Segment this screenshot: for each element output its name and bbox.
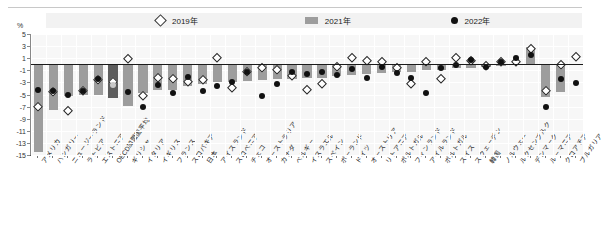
marker-2022 <box>408 75 414 81</box>
marker-2022 <box>200 88 206 94</box>
marker-2022 <box>110 82 116 88</box>
marker-2019 <box>212 53 222 63</box>
black-dot-icon <box>451 17 458 24</box>
y-axis-tick-mark <box>27 46 30 47</box>
gridline-horizontal <box>31 155 583 156</box>
gridline-vertical <box>76 34 77 155</box>
legend-label-2022: 2022年 <box>465 15 491 26</box>
marker-2022 <box>364 75 370 81</box>
y-axis-tick-mark <box>27 82 30 83</box>
gridline-vertical <box>195 34 196 155</box>
gridline-vertical <box>434 34 435 155</box>
legend-label-2019: 2019年 <box>172 15 198 26</box>
y-axis-tick-label: 1 <box>0 55 26 62</box>
legend-label-2021: 2021年 <box>325 15 351 26</box>
y-axis-tick-mark <box>27 107 30 108</box>
legend-item-2019: 2019年 <box>156 15 198 26</box>
gridline-vertical <box>180 34 181 155</box>
y-axis-tick-mark <box>27 34 30 35</box>
y-axis-tick-mark <box>27 70 30 71</box>
marker-2022 <box>468 57 474 63</box>
y-axis-tick-label: 5 <box>0 31 26 38</box>
bar-2021 <box>138 64 147 92</box>
gridline-vertical <box>359 34 360 155</box>
gridline-vertical <box>46 34 47 155</box>
gray-bar-icon <box>305 17 318 24</box>
marker-2022 <box>573 80 579 86</box>
y-axis-tick-label: -1 <box>0 67 26 74</box>
gridline-vertical <box>285 34 286 155</box>
gridline-vertical <box>419 34 420 155</box>
marker-2022 <box>65 92 71 98</box>
gridline-horizontal <box>31 143 583 144</box>
marker-2019 <box>347 52 357 62</box>
gridline-horizontal <box>31 46 583 47</box>
marker-2022 <box>319 69 325 75</box>
gridline-vertical <box>464 34 465 155</box>
marker-2022 <box>513 55 519 61</box>
marker-2022 <box>229 79 235 85</box>
y-axis-tick-label: -5 <box>0 91 26 98</box>
gridline-vertical <box>523 34 524 155</box>
diamond-outline-icon <box>154 14 167 27</box>
top-divider <box>8 7 582 8</box>
marker-2022 <box>140 104 146 110</box>
marker-2022 <box>349 66 355 72</box>
gridline-vertical <box>508 34 509 155</box>
gridline-vertical <box>300 34 301 155</box>
marker-2022 <box>125 89 131 95</box>
gridline-vertical <box>404 34 405 155</box>
y-axis-tick-mark <box>27 119 30 120</box>
bar-2021 <box>407 64 416 71</box>
marker-2022 <box>35 87 41 93</box>
marker-2022 <box>274 81 280 87</box>
bar-2021 <box>123 64 132 106</box>
marker-2022 <box>394 70 400 76</box>
gridline-vertical <box>31 34 32 155</box>
marker-2022 <box>438 65 444 71</box>
y-axis-tick-label: -15 <box>0 152 26 159</box>
marker-2022 <box>244 69 250 75</box>
gridline-vertical <box>493 34 494 155</box>
gridline-horizontal <box>31 119 583 120</box>
marker-2022 <box>80 88 86 94</box>
marker-2019 <box>123 54 133 64</box>
marker-2022 <box>289 69 295 75</box>
marker-2022 <box>558 76 564 82</box>
marker-2022 <box>185 74 191 80</box>
gridline-horizontal <box>31 131 583 132</box>
marker-2022 <box>528 52 534 58</box>
gridline-horizontal <box>31 34 583 35</box>
zero-axis-line <box>31 64 583 65</box>
marker-2022 <box>155 82 161 88</box>
y-axis-tick-label: -13 <box>0 139 26 146</box>
gridline-horizontal <box>31 107 583 108</box>
marker-2022 <box>423 90 429 96</box>
gridline-vertical <box>583 34 584 155</box>
gridline-vertical <box>553 34 554 155</box>
y-axis-unit-label: % <box>17 22 23 29</box>
gridline-vertical <box>255 34 256 155</box>
gridline-vertical <box>165 34 166 155</box>
gridline-vertical <box>389 34 390 155</box>
marker-2022 <box>259 93 265 99</box>
gridline-vertical <box>91 34 92 155</box>
marker-2022 <box>50 88 56 94</box>
gridline-vertical <box>121 34 122 155</box>
gridline-vertical <box>135 34 136 155</box>
y-axis-tick-mark <box>27 155 30 156</box>
y-axis-tick-mark <box>27 131 30 132</box>
gridline-vertical <box>479 34 480 155</box>
gridline-vertical <box>150 34 151 155</box>
marker-2022 <box>334 72 340 78</box>
chart-legend: 2019年 2021年 2022年 <box>46 13 582 28</box>
gridline-vertical <box>270 34 271 155</box>
y-axis-tick-label: 3 <box>0 43 26 50</box>
legend-item-2022: 2022年 <box>451 15 491 26</box>
marker-2019 <box>570 52 580 62</box>
gridline-vertical <box>329 34 330 155</box>
y-axis-tick-label: -7 <box>0 103 26 110</box>
gridline-vertical <box>210 34 211 155</box>
gridline-vertical <box>106 34 107 155</box>
